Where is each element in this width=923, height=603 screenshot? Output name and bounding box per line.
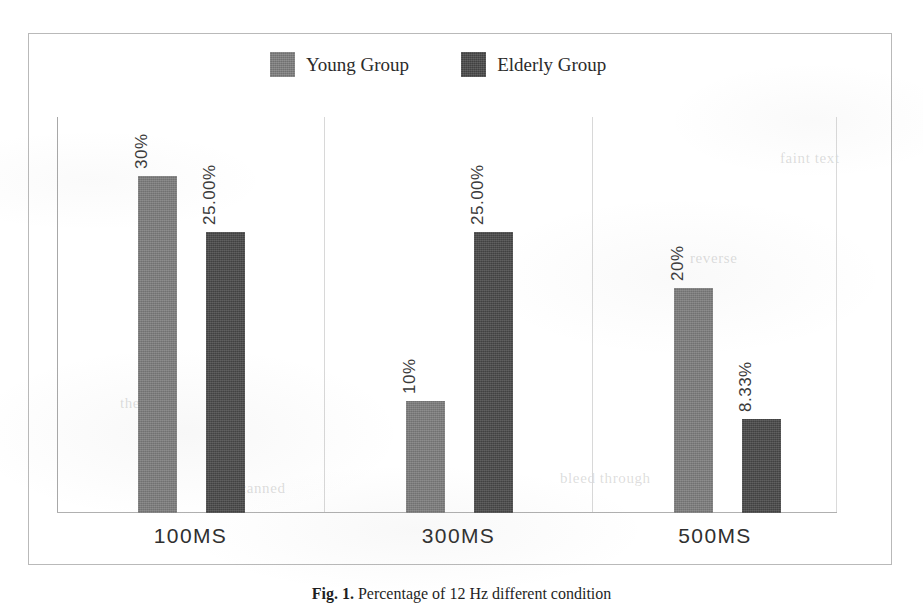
bar-value-300ms-young: 10% [409, 376, 426, 412]
plot-area: 30% 25.00% 10% 25.00% 20% [57, 117, 837, 513]
bar-300ms-elderly[interactable]: 25.00% [474, 232, 513, 513]
category-label-500ms: 500MS [593, 521, 837, 551]
legend-label-elderly-group: Elderly Group [497, 55, 606, 74]
bar-100ms-young[interactable]: 30% [138, 176, 177, 514]
bar-value-100ms-young: 30% [141, 151, 158, 187]
bar-value-300ms-elderly: 25.00% [477, 194, 494, 255]
bar-value-500ms-young: 20% [677, 263, 694, 299]
bar-500ms-elderly[interactable]: 8.33% [742, 419, 781, 513]
figure-caption: Fig. 1. Percentage of 12 Hz different co… [0, 585, 923, 603]
legend-swatch-young-icon [270, 52, 295, 77]
legend-entry-young-group: Young Group [270, 52, 409, 77]
bar-value-100ms-elderly: 25.00% [209, 194, 226, 255]
bar-500ms-young[interactable]: 20% [674, 288, 713, 513]
figure-caption-text: Percentage of 12 Hz different condition [358, 585, 611, 602]
figure-caption-label: Fig. 1. [312, 585, 354, 602]
bar-300ms-young[interactable]: 10% [406, 401, 445, 514]
category-axis-labels: 100MS 300MS 500MS [57, 521, 837, 555]
bar-group-100ms: 30% 25.00% [57, 117, 324, 513]
bar-100ms-elderly[interactable]: 25.00% [206, 232, 245, 513]
legend-swatch-elderly-icon [461, 52, 486, 77]
legend-entry-elderly-group: Elderly Group [461, 52, 606, 77]
chart-legend: Young Group Elderly Group [270, 49, 606, 79]
category-label-100ms: 100MS [57, 521, 324, 551]
bar-group-300ms: 10% 25.00% [325, 117, 592, 513]
category-label-300ms: 300MS [325, 521, 592, 551]
legend-label-young-group: Young Group [306, 55, 409, 74]
bar-value-500ms-elderly: 8.33% [745, 387, 762, 438]
bar-group-500ms: 20% 8.33% [593, 117, 837, 513]
